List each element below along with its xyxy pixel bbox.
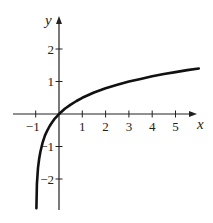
y-axis-label: y [43, 12, 52, 28]
x-tick-label: 5 [172, 119, 179, 134]
x-tick-label: 4 [149, 119, 156, 134]
x-axis-arrow-icon [189, 111, 197, 117]
x-tick-label: 2 [102, 119, 109, 134]
x-tick-label: 3 [126, 119, 133, 134]
curve-line [36, 69, 198, 209]
y-tick-label: 1 [48, 74, 55, 89]
y-tick-label: −2 [40, 172, 54, 187]
x-tick-label: −1 [26, 119, 40, 134]
graph: −112345−2−112 x y [0, 0, 213, 223]
x-axis-label: x [196, 116, 204, 132]
y-axis-arrow-icon [56, 16, 62, 24]
x-tick-label: 1 [79, 119, 86, 134]
y-tick-label: 2 [48, 42, 55, 57]
